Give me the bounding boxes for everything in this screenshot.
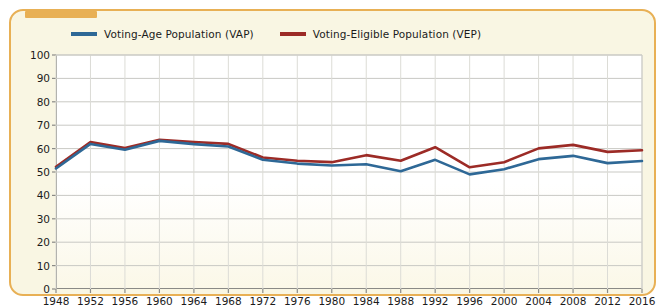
x-axis-tick-label: 1964 <box>181 295 208 305</box>
x-axis-tick-label: 1976 <box>284 295 311 305</box>
series-layer <box>56 55 642 289</box>
corner-tab <box>25 11 97 18</box>
plot-wrapper: 0102030405060708090100194819521956196019… <box>56 55 642 289</box>
x-axis-tick-label: 2016 <box>629 295 656 305</box>
y-axis-tick-label: 50 <box>37 166 50 178</box>
x-axis-tick-label: 1988 <box>387 295 414 305</box>
legend-label-vap: Voting-Age Population (VAP) <box>104 28 254 40</box>
y-axis-tick-label: 30 <box>37 213 50 225</box>
y-axis-tick-label: 0 <box>43 283 50 295</box>
x-axis-tick-label: 2008 <box>560 295 587 305</box>
x-axis-tick-label: 1980 <box>318 295 345 305</box>
x-axis-tick-label: 1992 <box>422 295 449 305</box>
chart-figure: Voting-Age Population (VAP) Voting-Eligi… <box>0 0 665 305</box>
x-axis-tick-label: 2004 <box>525 295 552 305</box>
x-axis-tick-label: 1952 <box>77 295 104 305</box>
y-axis-tick-label: 100 <box>30 49 50 61</box>
chart-legend: Voting-Age Population (VAP) Voting-Eligi… <box>71 28 481 40</box>
y-axis-tick-label: 70 <box>37 119 50 131</box>
legend-label-vep: Voting-Eligible Population (VEP) <box>313 28 481 40</box>
y-axis-tick-label: 40 <box>37 189 50 201</box>
x-axis-tick-label: 1960 <box>146 295 173 305</box>
x-axis-tick-label: 2000 <box>491 295 518 305</box>
y-axis-tick-label: 80 <box>37 96 50 108</box>
x-axis-tick-label: 1956 <box>112 295 139 305</box>
x-axis-tick-label: 1996 <box>456 295 483 305</box>
y-axis-tick-label: 90 <box>37 72 50 84</box>
legend-swatch-vep <box>280 32 306 36</box>
legend-item-vep: Voting-Eligible Population (VEP) <box>280 28 481 40</box>
x-axis-tick-label: 1948 <box>43 295 70 305</box>
y-axis-tick-label: 10 <box>37 260 50 272</box>
y-axis-tick-label: 60 <box>37 143 50 155</box>
legend-item-vap: Voting-Age Population (VAP) <box>71 28 254 40</box>
x-axis-tick-label: 1972 <box>249 295 276 305</box>
x-axis-tick-label: 1984 <box>353 295 380 305</box>
legend-swatch-vap <box>71 32 97 36</box>
x-axis-tick-label: 2012 <box>594 295 621 305</box>
chart-panel: Voting-Age Population (VAP) Voting-Eligi… <box>9 9 656 296</box>
x-axis-tick-label: 1968 <box>215 295 242 305</box>
y-axis-tick-label: 20 <box>37 236 50 248</box>
